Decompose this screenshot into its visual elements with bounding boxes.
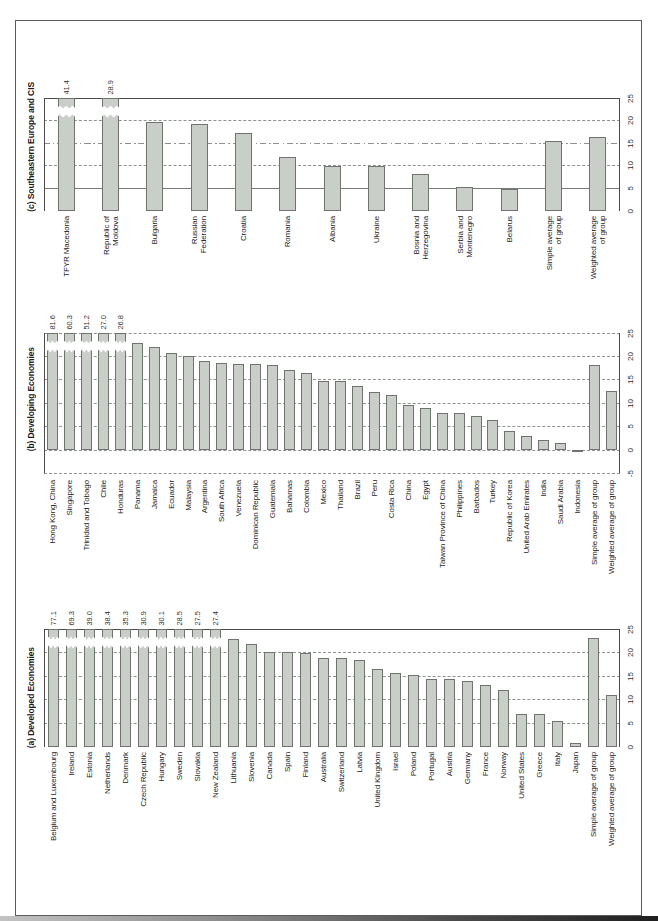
y-tick-text: 0	[626, 209, 635, 213]
scanned-figure-page: 41.4TFYR Macedonia28.9Republic of Moldov…	[0, 0, 658, 921]
bar-france	[480, 685, 491, 747]
bar-china	[403, 405, 414, 450]
category-label-text: South Africa	[217, 480, 226, 522]
bar-belgium-and-luxembourg	[48, 629, 59, 747]
gridline-b-10	[44, 403, 620, 404]
break-value-text: 30.1	[157, 611, 166, 626]
y-tick-c-10: 10	[622, 157, 638, 175]
category-label-romania: Romania	[277, 216, 299, 247]
category-label-text: Estonia	[85, 752, 94, 778]
break-value-label-tfyr-macedonia: 41.4	[58, 67, 74, 95]
axis-break-mark	[119, 637, 132, 649]
bar-czech-republic	[138, 629, 149, 747]
y-tick-text: 10	[626, 161, 635, 170]
bar-bulgaria	[146, 122, 163, 211]
bar-norway	[498, 690, 509, 747]
gridline-c-25	[44, 98, 620, 99]
y-tick-b-5: 5	[622, 418, 638, 436]
category-label-text: Greece	[535, 752, 544, 778]
break-value-text: 51.2	[82, 315, 91, 330]
y-tick-a-25: 25	[622, 620, 638, 638]
bar-austria	[444, 679, 455, 747]
panel-title-b: (b) Developing Economies	[23, 279, 38, 451]
category-label-text: Simple average of group	[590, 480, 599, 565]
bar-united-states	[516, 714, 527, 748]
break-value-label-singapore: 60.3	[61, 302, 77, 330]
y-tick-a-20: 20	[622, 644, 638, 662]
category-label-text: Bosnia and Herzegovina	[412, 216, 430, 260]
category-label-text: Costa Rica	[387, 480, 396, 518]
bar-indonesia	[572, 450, 583, 452]
y-tick-b-0: 0	[622, 441, 638, 459]
gridline-b-0	[44, 450, 620, 451]
category-label-text: Denmark	[121, 752, 130, 784]
y-tick-text: 15	[626, 375, 635, 384]
axis-line-right-a	[619, 629, 620, 747]
panel-a-plot	[44, 629, 620, 747]
category-label-text: Israel	[391, 752, 400, 771]
y-tick-text: 10	[626, 399, 635, 408]
y-tick-text: 25	[626, 329, 635, 338]
bar-turkey	[487, 420, 498, 450]
bar-albania	[324, 166, 341, 211]
break-value-label-belgium-and-luxembourg: 77.1	[45, 598, 61, 626]
bar-costa-rica	[386, 395, 397, 450]
axis-break-mark	[83, 637, 96, 649]
category-label-text: New Zealand	[211, 752, 220, 798]
bar-south-africa	[216, 363, 227, 450]
panel-c-plot	[44, 98, 620, 211]
break-value-label-hungary: 30.1	[153, 598, 169, 626]
bar-trinidad-and-tobago	[81, 333, 92, 450]
bar-latvia	[354, 660, 365, 747]
bar-spain	[282, 652, 293, 747]
bar-venezuela	[233, 364, 244, 450]
category-label-text: Bahamas	[285, 480, 294, 513]
category-label-text: Latvia	[355, 752, 364, 773]
category-label-text: Lithuania	[229, 752, 238, 784]
gridline-b-25	[44, 333, 620, 334]
break-value-label-ireland: 69.3	[63, 598, 79, 626]
bar-serbia-and-montenegro	[456, 187, 473, 211]
category-label-text: Austria	[445, 752, 454, 776]
category-label-text: Canada	[265, 752, 274, 779]
category-label-text: Spain	[283, 752, 292, 772]
category-label-text: France	[481, 752, 490, 776]
bar-hong-kong-china	[47, 333, 58, 450]
break-value-text: 27.4	[211, 611, 220, 626]
bar-portugal	[426, 679, 437, 747]
category-label-text: United States	[517, 752, 526, 799]
category-label-text: Romania	[283, 216, 292, 247]
category-label-text: Finland	[301, 752, 310, 778]
axis-break-mark	[47, 637, 60, 649]
bar-estonia	[84, 629, 95, 747]
break-value-label-sweden: 28.5	[171, 598, 187, 626]
bar-tfyr-macedonia	[58, 98, 75, 211]
bar-greece	[534, 714, 545, 747]
bar-bosnia-and-herzegovina	[412, 174, 429, 211]
y-tick-text: 20	[626, 116, 635, 125]
bar-poland	[408, 675, 419, 747]
y-tick-text: 15	[626, 139, 635, 148]
bar-germany	[462, 681, 473, 747]
bar-belarus	[501, 189, 518, 211]
bar-ireland	[66, 629, 77, 747]
bar-netherlands	[102, 629, 113, 747]
category-label-text: Sweden	[175, 752, 184, 780]
bar-japan	[570, 743, 581, 747]
category-label-text: Brazil	[353, 480, 362, 499]
bar-australia	[318, 658, 329, 747]
category-label-serbia-and-montenegro: Serbia and Montenegro	[454, 216, 476, 258]
bar-panama	[132, 343, 143, 450]
category-label-text: Guatemala	[268, 480, 277, 518]
axis-break-mark	[101, 637, 114, 649]
y-tick-a-10: 10	[622, 691, 638, 709]
break-value-text: 38.4	[103, 611, 112, 626]
y-tick-text: 5	[626, 186, 635, 190]
break-value-text: 28.9	[106, 80, 115, 95]
axis-break-mark	[173, 637, 186, 649]
bar-malaysia	[183, 356, 194, 450]
bar-india	[538, 440, 549, 450]
category-label-albania: Albania	[321, 216, 343, 242]
category-label-text: Norway	[499, 752, 508, 779]
category-label-text: Singapore	[65, 480, 74, 516]
